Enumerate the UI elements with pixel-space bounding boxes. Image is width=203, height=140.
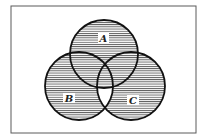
set-c-label: C xyxy=(129,95,137,106)
venn-diagram: A B C xyxy=(0,0,203,140)
set-b-label: B xyxy=(64,93,73,104)
set-a-label: A xyxy=(99,33,108,44)
